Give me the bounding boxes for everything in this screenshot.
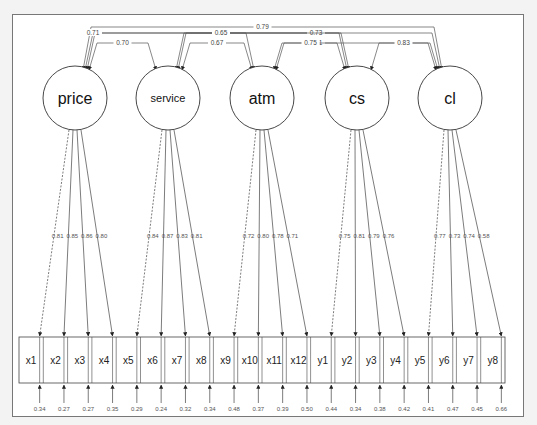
loading-value-x5: 0.84 — [147, 233, 159, 239]
indicator-x7: x7 — [172, 355, 183, 366]
loading-value-x1: 0.81 — [52, 233, 64, 239]
loading-value-y8: 0.58 — [478, 233, 490, 239]
indicator-y8: y8 — [488, 355, 499, 366]
correlation-value-service-cl: 0.73 — [310, 29, 323, 36]
error-value-x11: 0.39 — [277, 406, 289, 412]
correlation-value-atm-cs: 0.75 — [304, 39, 317, 46]
error-value-y4: 0.42 — [398, 406, 410, 412]
correlation-price-atm — [87, 33, 254, 70]
indicator-x11: x11 — [266, 355, 282, 366]
correlation-value-price-atm: 0.71 — [87, 29, 100, 36]
indicator-x1: x1 — [26, 355, 37, 366]
indicator-x12: x12 — [290, 355, 307, 366]
loading-value-x3: 0.86 — [81, 233, 93, 239]
indicator-x10: x10 — [242, 355, 259, 366]
indicator-x6: x6 — [147, 355, 158, 366]
error-value-x2: 0.27 — [58, 406, 70, 412]
correlation-price-cl — [83, 27, 442, 70]
error-value-y3: 0.38 — [374, 406, 386, 412]
indicator-x8: x8 — [196, 355, 207, 366]
correlation-atm-cs — [276, 43, 345, 70]
cfa-path-diagram: 0.790.530.730.710.650.700.670.610.750.83… — [0, 0, 537, 425]
indicator-y5: y5 — [415, 355, 426, 366]
error-value-x7: 0.32 — [180, 406, 192, 412]
latent-label-price: price — [58, 90, 93, 107]
correlation-value-cs-cl: 0.83 — [397, 39, 410, 46]
latent-label-service: service — [151, 92, 186, 104]
loading-value-x9: 0.72 — [243, 233, 255, 239]
loading-value-x4: 0.80 — [96, 233, 108, 239]
loading-value-y1: 0.75 — [339, 233, 351, 239]
indicator-y6: y6 — [439, 355, 450, 366]
indicator-x3: x3 — [74, 355, 85, 366]
indicator-y3: y3 — [366, 355, 377, 366]
correlation-cs-cl — [371, 43, 436, 70]
error-value-y2: 0.34 — [350, 406, 362, 412]
indicator-x2: x2 — [50, 355, 61, 366]
latent-label-atm: atm — [249, 90, 276, 107]
indicator-y4: y4 — [390, 355, 401, 366]
loading-value-x7: 0.83 — [176, 233, 188, 239]
latent-label-cl: cl — [444, 90, 456, 107]
loading-value-y5: 0.77 — [434, 233, 446, 239]
correlation-price-service — [89, 43, 156, 70]
error-value-y5: 0.41 — [423, 406, 435, 412]
latent-label-cs: cs — [349, 90, 365, 107]
error-value-x4: 0.35 — [107, 406, 119, 412]
correlation-value-service-cs: 0.65 — [215, 29, 228, 36]
error-value-y6: 0.47 — [447, 406, 459, 412]
indicator-x4: x4 — [99, 355, 110, 366]
loading-value-x12: 0.71 — [286, 233, 298, 239]
error-value-x12: 0.50 — [301, 406, 313, 412]
loading-value-y3: 0.79 — [368, 233, 380, 239]
error-value-x3: 0.27 — [82, 406, 94, 412]
loading-value-x10: 0.80 — [257, 233, 269, 239]
correlation-arcs: 0.790.530.730.710.650.700.670.610.750.83 — [83, 23, 442, 70]
error-value-y8: 0.66 — [496, 406, 508, 412]
loading-value-x6: 0.87 — [162, 233, 174, 239]
error-value-x1: 0.34 — [34, 406, 46, 412]
loading-value-y4: 0.76 — [383, 233, 395, 239]
loading-value-y2: 0.81 — [353, 233, 365, 239]
error-value-x6: 0.24 — [155, 406, 167, 412]
indicator-boxes: x1x2x3x4x5x6x7x8x9x10x11x12y1y2y3y4y5y6y… — [19, 337, 505, 383]
correlation-service-atm — [182, 43, 252, 70]
loading-value-x11: 0.78 — [272, 233, 284, 239]
indicator-x9: x9 — [220, 355, 231, 366]
loading-value-x8: 0.81 — [191, 233, 203, 239]
error-value-y7: 0.45 — [471, 406, 483, 412]
loading-value-y6: 0.73 — [449, 233, 461, 239]
correlation-value-price-cl: 0.79 — [256, 23, 269, 30]
indicator-y2: y2 — [342, 355, 353, 366]
error-value-x5: 0.29 — [131, 406, 143, 412]
error-value-x10: 0.37 — [253, 406, 265, 412]
indicator-y7: y7 — [463, 355, 474, 366]
error-terms: 0.340.270.270.350.290.240.320.340.480.37… — [34, 385, 508, 412]
indicator-y1: y1 — [317, 355, 328, 366]
error-value-x9: 0.48 — [228, 406, 240, 412]
indicator-x5: x5 — [123, 355, 134, 366]
loading-value-x2: 0.85 — [66, 233, 78, 239]
error-value-x8: 0.34 — [204, 406, 216, 412]
correlation-value-price-service: 0.70 — [116, 39, 129, 46]
error-value-y1: 0.44 — [325, 406, 337, 412]
latent-factors: priceserviceatmcscl — [43, 66, 482, 130]
loading-paths: 0.810.850.860.800.840.870.830.810.720.80… — [40, 130, 502, 336]
loading-value-y7: 0.74 — [463, 233, 475, 239]
correlation-value-service-atm: 0.67 — [211, 39, 224, 46]
